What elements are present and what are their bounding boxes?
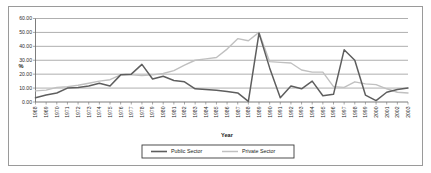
x-tick-label: 1996 bbox=[330, 106, 336, 117]
y-tick-label: 40.00 bbox=[19, 43, 32, 49]
series-line-public-sector bbox=[36, 33, 409, 101]
x-tick-label: 1977 bbox=[128, 106, 134, 117]
chart-container: 0.0010.0020.0030.0040.0050.0060.00 19681… bbox=[8, 6, 423, 166]
x-tick-label: 1981 bbox=[171, 106, 177, 117]
y-tick-label: 20.00 bbox=[19, 71, 32, 77]
x-tick-label: 2002 bbox=[394, 106, 400, 117]
x-tick-label: 1976 bbox=[118, 106, 124, 117]
x-tick-label: 1978 bbox=[139, 106, 145, 117]
chart-legend: Public Sector Private Sector bbox=[142, 145, 294, 158]
y-tick-label: 0.00 bbox=[22, 99, 32, 105]
x-tick-label: 1974 bbox=[96, 106, 102, 117]
x-tick-label: 1988 bbox=[245, 106, 251, 117]
y-axis-tick-labels: 0.0010.0020.0030.0040.0050.0060.00 bbox=[19, 15, 32, 105]
y-tick-label: 60.00 bbox=[19, 15, 32, 21]
y-tick-label: 50.00 bbox=[19, 29, 32, 35]
x-tick-label: 1983 bbox=[192, 106, 198, 117]
series-line-private-sector bbox=[36, 32, 409, 93]
x-tick-label: 1969 bbox=[43, 106, 49, 117]
x-tick-label: 1979 bbox=[149, 106, 155, 117]
x-tick-label: 1985 bbox=[213, 106, 219, 117]
x-tick-label: 2003 bbox=[405, 106, 411, 117]
x-tick-label: 1993 bbox=[298, 106, 304, 117]
x-tick-label: 1991 bbox=[277, 106, 283, 117]
x-tick-label: 1992 bbox=[288, 106, 294, 117]
x-tick-label: 1970 bbox=[54, 106, 60, 117]
x-tick-label: 1973 bbox=[86, 106, 92, 117]
x-tick-label: 1986 bbox=[224, 106, 230, 117]
x-tick-label: 1968 bbox=[32, 106, 38, 117]
x-tick-label: 1984 bbox=[203, 106, 209, 117]
y-tick-label: 10.00 bbox=[19, 85, 32, 91]
x-axis-tick-labels: 1968196919701971197219731974197519761977… bbox=[32, 106, 411, 117]
x-axis-title: Year bbox=[221, 132, 234, 138]
x-tick-label: 1975 bbox=[107, 106, 113, 117]
x-tick-label: 1980 bbox=[160, 106, 166, 117]
x-tick-label: 1994 bbox=[309, 106, 315, 117]
legend-label-public-sector: Public Sector bbox=[171, 148, 202, 154]
y-axis-title: % bbox=[19, 63, 24, 69]
x-tick-label: 2000 bbox=[373, 106, 379, 117]
x-tick-label: 1998 bbox=[352, 106, 358, 117]
gridlines-group bbox=[33, 19, 408, 103]
x-tick-label: 1987 bbox=[235, 106, 241, 117]
x-tick-label: 1972 bbox=[75, 106, 81, 117]
legend-label-private-sector: Private Sector bbox=[242, 148, 276, 154]
x-tick-label: 1997 bbox=[341, 106, 347, 117]
x-tick-label: 2001 bbox=[384, 106, 390, 117]
x-tick-label: 1971 bbox=[64, 106, 70, 117]
x-tick-label: 1990 bbox=[267, 106, 273, 117]
x-tick-label: 1999 bbox=[362, 106, 368, 117]
x-tick-label: 1995 bbox=[320, 106, 326, 117]
x-tick-label: 1989 bbox=[256, 106, 262, 117]
line-chart: 0.0010.0020.0030.0040.0050.0060.00 19681… bbox=[9, 7, 422, 165]
x-tick-label: 1982 bbox=[181, 106, 187, 117]
